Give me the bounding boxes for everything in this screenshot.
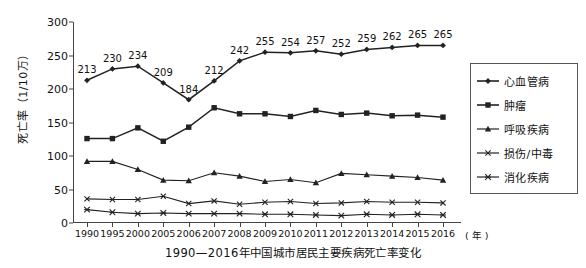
data-point-label: 257 xyxy=(306,35,325,46)
data-point-asterisk xyxy=(135,211,141,217)
legend-marker-x-icon xyxy=(475,146,501,160)
legend-label: 心血管病 xyxy=(504,73,549,89)
data-point-diamond xyxy=(389,45,395,51)
x-tick-label: 2012 xyxy=(329,228,353,239)
legend-label: 呼吸疾病 xyxy=(504,121,549,137)
data-point-asterisk xyxy=(288,211,294,217)
data-point-label: 234 xyxy=(128,50,147,61)
data-point-diamond xyxy=(262,49,268,55)
legend-item-3[interactable]: 呼吸疾病 xyxy=(475,117,577,141)
data-point-asterisk xyxy=(485,174,491,180)
y-tick-label: 150 xyxy=(47,116,68,129)
y-tick-label: 50 xyxy=(54,183,68,196)
data-point-label: 230 xyxy=(103,53,122,64)
data-point-asterisk xyxy=(415,211,421,217)
data-point-asterisk xyxy=(440,212,446,218)
data-point-asterisk xyxy=(313,212,319,218)
data-point-asterisk xyxy=(364,211,370,217)
data-point-label: 242 xyxy=(230,45,249,56)
data-point-diamond xyxy=(440,43,446,49)
data-point-label: 184 xyxy=(179,84,198,95)
x-axis-unit: ( 年 ) xyxy=(465,228,488,242)
data-point-diamond xyxy=(84,77,90,83)
series-x xyxy=(84,194,445,207)
x-tick-label: 2014 xyxy=(380,228,404,239)
data-point-square xyxy=(237,111,242,116)
x-tick-label: 2008 xyxy=(227,228,251,239)
figure-caption: 1990—2016年中国城市居民主要疾病死亡率变化 xyxy=(0,244,586,260)
data-point-diamond xyxy=(415,43,421,49)
x-tick-label: 2000 xyxy=(126,228,150,239)
data-point-square xyxy=(313,108,318,113)
x-tick-label: 2015 xyxy=(405,228,429,239)
data-point-square xyxy=(186,124,191,129)
legend-marker-square-icon xyxy=(475,98,501,112)
legend-marker-diamond-icon xyxy=(475,74,501,88)
chart-figure: 死亡率（1/10万） 050100150200250300 1990199520… xyxy=(0,0,586,268)
legend-item-4[interactable]: 损伤/中毒 xyxy=(475,141,577,165)
y-tick-label: 200 xyxy=(47,83,68,96)
data-point-square xyxy=(110,136,115,141)
data-point-square xyxy=(339,112,344,117)
y-tick-label: 100 xyxy=(47,150,68,163)
data-point-triangle xyxy=(211,170,217,176)
y-tick-label: 300 xyxy=(47,16,68,29)
data-point-label: 252 xyxy=(332,38,351,49)
data-point-asterisk xyxy=(237,211,243,217)
data-point-diamond xyxy=(313,48,319,54)
data-point-asterisk xyxy=(110,209,116,215)
data-point-label: 265 xyxy=(408,29,427,40)
data-point-asterisk xyxy=(211,211,217,217)
y-tick-label: 250 xyxy=(47,49,68,62)
x-tick-label: 1995 xyxy=(100,228,124,239)
data-point-diamond xyxy=(485,78,491,84)
data-point-label: 209 xyxy=(154,67,173,78)
legend-item-2[interactable]: 肿瘤 xyxy=(475,93,577,117)
series-square xyxy=(84,105,445,144)
legend-label: 肿瘤 xyxy=(504,97,527,113)
data-point-asterisk xyxy=(84,207,90,213)
data-point-square xyxy=(288,114,293,119)
x-tick-label: 2010 xyxy=(278,228,302,239)
data-point-square xyxy=(389,113,394,118)
x-tick-label: 1990 xyxy=(75,228,99,239)
data-point-asterisk xyxy=(160,210,166,216)
data-point-label: 254 xyxy=(281,37,300,48)
y-tick-label: 0 xyxy=(61,217,68,230)
x-tick-label: 2007 xyxy=(202,228,226,239)
x-tick-label: 2011 xyxy=(304,228,328,239)
data-point-square xyxy=(135,125,140,130)
y-axis-title: 死亡率（1/10万） xyxy=(14,36,30,156)
data-point-diamond xyxy=(110,66,116,72)
x-tick-label: 2006 xyxy=(177,228,201,239)
data-point-square xyxy=(262,111,267,116)
data-point-asterisk xyxy=(338,213,344,219)
x-tick-label: 2016 xyxy=(431,228,455,239)
data-point-asterisk xyxy=(389,212,395,218)
x-tick-label: 2013 xyxy=(355,228,379,239)
data-point-square xyxy=(415,112,420,117)
data-point-square xyxy=(485,102,490,107)
legend-item-1[interactable]: 心血管病 xyxy=(475,69,577,93)
series-triangle xyxy=(84,158,446,185)
data-point-asterisk xyxy=(262,211,268,217)
data-point-label: 213 xyxy=(77,64,96,75)
legend-marker-triangle-icon xyxy=(475,122,501,136)
legend-marker-asterisk-icon xyxy=(475,170,501,184)
legend: 心血管病肿瘤呼吸疾病损伤/中毒消化疾病 xyxy=(470,63,578,194)
data-point-square xyxy=(211,105,216,110)
data-point-diamond xyxy=(338,51,344,57)
data-point-square xyxy=(161,139,166,144)
data-point-square xyxy=(440,114,445,119)
legend-label: 损伤/中毒 xyxy=(504,145,553,161)
series-asterisk xyxy=(84,207,446,219)
data-point-label: 212 xyxy=(205,65,224,76)
data-point-label: 259 xyxy=(357,33,376,44)
x-tick-label: 2005 xyxy=(151,228,175,239)
data-point-diamond xyxy=(364,47,370,53)
legend-item-5[interactable]: 消化疾病 xyxy=(475,165,577,189)
data-point-square xyxy=(364,110,369,115)
data-point-label: 262 xyxy=(383,31,402,42)
data-point-label: 265 xyxy=(433,29,452,40)
plot-area: 050100150200250300 199019952000200520062… xyxy=(73,22,461,223)
